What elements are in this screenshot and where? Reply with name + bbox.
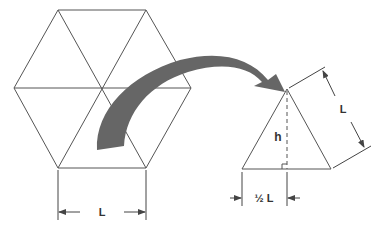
- hexagon-triangle-diagram: L h L ½ L: [0, 0, 384, 229]
- half-base-label: ½ L: [255, 192, 274, 204]
- height-label: h: [274, 130, 281, 144]
- equilateral-triangle: [242, 89, 331, 169]
- triangle-side-dimension: [289, 67, 371, 168]
- hexagon-side-label: L: [99, 206, 106, 218]
- transfer-arrow: [97, 56, 285, 150]
- triangle-side-label: L: [340, 103, 347, 115]
